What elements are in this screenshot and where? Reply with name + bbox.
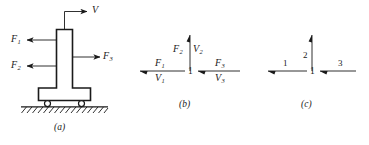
bond-up-flow-b-sub: 2 [199, 48, 202, 55]
bond-left-label-c: 1 [283, 58, 288, 68]
junction-node-c: 1 [310, 66, 315, 76]
panel-a-geometry [21, 12, 108, 114]
caption-b: (b) [179, 99, 190, 109]
velocity-label-text: V [92, 4, 98, 15]
force-1-label: F1 [11, 34, 20, 44]
bond-right-effort-b-sub: 3 [221, 62, 224, 69]
figure-container: V F1 F2 F3 (a) F2 V2 F1 V1 F3 V3 1 (b) 2… [0, 0, 369, 145]
ground-hatching [22, 107, 109, 113]
caption-a: (a) [54, 122, 65, 132]
bond-up-flow-b: V2 [193, 44, 202, 54]
force-2-label: F2 [11, 60, 20, 70]
force-1-label-sub: 1 [17, 38, 20, 45]
caption-c: (c) [301, 99, 312, 109]
bond-left-flow-b-sub: 1 [161, 77, 164, 84]
velocity-arrow [65, 12, 88, 30]
bond-left-effort-b: F1 [155, 58, 164, 68]
bond-left-effort-b-sub: 1 [161, 62, 164, 69]
force-3-label-sub: 3 [109, 55, 112, 62]
bond-up-label-c: 2 [303, 50, 308, 60]
bond-left-flow-b: V1 [155, 73, 164, 83]
force-2-label-sub: 2 [17, 64, 20, 71]
bond-up-effort-b-sub: 2 [179, 48, 182, 55]
force-3-label: F3 [103, 51, 112, 61]
bond-up-effort-b: F2 [173, 44, 182, 54]
wheel-right [79, 101, 85, 107]
bond-right-flow-b: V3 [215, 73, 224, 83]
bond-right-effort-b: F3 [215, 58, 224, 68]
bond-right-label-c: 3 [338, 58, 343, 68]
wheel-left [45, 101, 51, 107]
velocity-label: V [92, 5, 98, 15]
junction-node-b: 1 [188, 66, 193, 76]
bond-right-flow-b-sub: 3 [221, 77, 224, 84]
